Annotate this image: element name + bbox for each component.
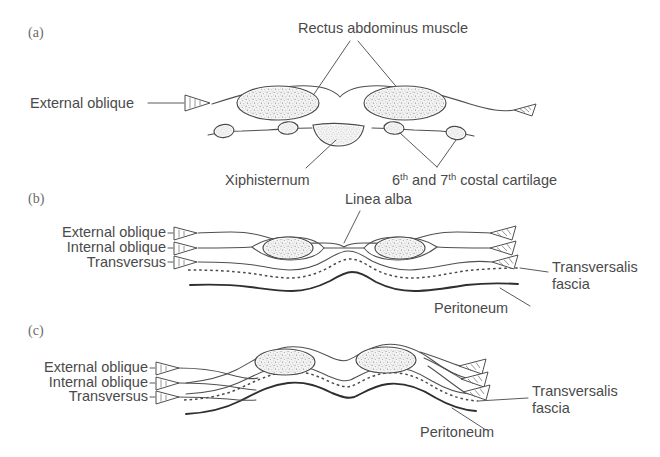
abdominal-wall-figure: (a) Rectus abdominus muscle External obl… [0, 0, 660, 457]
panel-b-label-transversalis-1: Transversalis [552, 259, 638, 275]
panel-c-label-transversus: Transversus [69, 388, 148, 404]
panel-c-rectus-stipple-right [358, 348, 415, 371]
panel-b-left-arrowheads [174, 227, 197, 269]
panel-a-label-external-oblique: External oblique [30, 95, 134, 111]
panel-a-rectus-stipple-right [366, 87, 445, 118]
costal-sup-th-1: th [400, 171, 408, 182]
panel-c-tag: (c) [28, 323, 44, 339]
panel-c-left-arrowheads [156, 362, 179, 404]
panel-b-label-transversalis-2: fascia [552, 276, 591, 292]
panel-b-label-internal-oblique: Internal oblique [67, 239, 166, 255]
panel-c-rectus-stipple-left [257, 350, 314, 373]
panel-c-label-external-oblique: External oblique [44, 359, 148, 375]
panel-b-leader-linea-alba [344, 211, 360, 243]
costal-num-6: 6 [392, 172, 400, 188]
panel-b-leader-transversalis [520, 268, 548, 272]
costal-sup-th-2: th [448, 171, 456, 182]
panel-b-label-linea-alba: Linea alba [345, 191, 413, 207]
panel-c-label-transversalis-2: fascia [532, 400, 571, 416]
panel-b-rectus-stipple-right [376, 238, 423, 258]
panel-c-strand-right-internal [424, 358, 462, 379]
panel-a: (a) Rectus abdominus muscle External obl… [28, 20, 557, 188]
panel-c-label-peritoneum: Peritoneum [420, 424, 494, 440]
panel-c: (c) [28, 323, 618, 440]
panel-a-label-xiphisternum: Xiphisternum [225, 172, 310, 188]
panel-c-peritoneum [186, 383, 476, 414]
panel-b-rectus-stipple-left [264, 238, 311, 258]
panel-a-leader-costal-right [437, 140, 456, 167]
panel-a-leader-costal-left [400, 133, 437, 167]
leader-rectus-left [310, 41, 350, 100]
panel-b-label-external-oblique: External oblique [62, 224, 166, 240]
panel-b-peritoneum [190, 272, 518, 291]
panel-b-external-oblique-sheet [198, 232, 490, 247]
panel-b-label-transversus: Transversus [87, 254, 166, 270]
panel-a-right-wedge [514, 104, 536, 116]
panel-c-right-wedges [459, 359, 490, 400]
panel-a-leader-xiphisternum [306, 140, 336, 168]
panel-b-tag: (b) [28, 191, 45, 207]
panel-a-arrowhead-external-oblique [185, 95, 210, 111]
panel-c-outer-contour [186, 344, 470, 383]
panel-b-right-wedges [490, 226, 518, 269]
panel-a-label-rectus: Rectus abdominus muscle [298, 20, 468, 36]
costal-and: and 7 [408, 172, 448, 188]
panel-b-label-peritoneum: Peritoneum [434, 300, 508, 316]
panel-b-transversus-sheet [198, 251, 492, 270]
panel-b: (b) Linea alba [28, 191, 638, 316]
panel-a-label-costal-cartilage: 6th and 7th costal cartilage [392, 171, 557, 188]
panel-a-rectus-stipple-left [239, 87, 318, 118]
panel-c-inner-contour [186, 366, 470, 394]
panel-a-tag: (a) [28, 25, 44, 41]
costal-suffix: costal cartilage [456, 172, 557, 188]
panel-c-label-transversalis-1: Transversalis [532, 383, 618, 399]
